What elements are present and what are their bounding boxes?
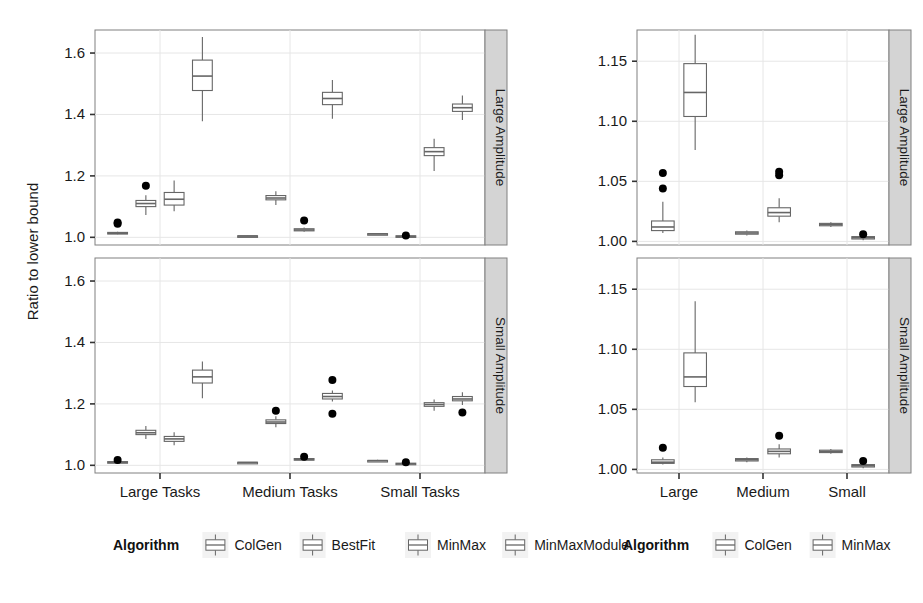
box-small-tasks-colgen bbox=[368, 460, 388, 462]
left-legend-key-minmaxmodule[interactable] bbox=[502, 532, 528, 558]
strip-left-large-amplitude: Large Amplitude bbox=[485, 30, 508, 245]
box-rect bbox=[652, 221, 675, 231]
box-rect bbox=[684, 353, 707, 387]
y-axis-title: Ratio to lower bound bbox=[24, 183, 41, 321]
strip-right-small-amplitude: Small Amplitude bbox=[889, 258, 912, 473]
ytick-label: 1.4 bbox=[64, 105, 85, 122]
outlier-point bbox=[775, 432, 783, 440]
box-small-colgen bbox=[820, 449, 843, 454]
xtick-label: Small bbox=[828, 483, 866, 500]
outlier-point bbox=[142, 182, 150, 190]
ytick-label: 1.05 bbox=[598, 400, 627, 417]
ytick-label: 1.05 bbox=[598, 172, 627, 189]
box-medium-colgen bbox=[736, 457, 759, 462]
ytick-label: 1.2 bbox=[64, 167, 85, 184]
ytick-label: 1.10 bbox=[598, 340, 627, 357]
strip-right-large-amplitude: Large Amplitude bbox=[889, 30, 912, 245]
panel-left-small-amplitude: 1.01.21.41.6Large TasksMedium TasksSmall… bbox=[64, 258, 485, 500]
ytick-label: 1.15 bbox=[598, 52, 627, 69]
ytick-label: 1.4 bbox=[64, 333, 85, 350]
right-legend-label-minmax: MinMax bbox=[842, 537, 891, 553]
xtick-label: Large Tasks bbox=[120, 483, 201, 500]
box-medium-tasks-colgen bbox=[238, 462, 258, 464]
left-legend-label-minmax: MinMax bbox=[437, 537, 486, 553]
ytick-label: 1.00 bbox=[598, 232, 627, 249]
box-medium-tasks-colgen bbox=[238, 235, 258, 237]
outlier-point bbox=[300, 453, 308, 461]
outlier-point bbox=[659, 444, 667, 452]
figure-root: 1.01.21.41.6Large Amplitude1.01.21.41.6L… bbox=[0, 0, 923, 603]
ytick-label: 1.0 bbox=[64, 228, 85, 245]
strip-label: Large Amplitude bbox=[493, 89, 508, 187]
ytick-label: 1.10 bbox=[598, 112, 627, 129]
left-legend-label-minmaxmodule: MinMaxModule bbox=[534, 537, 629, 553]
ytick-label: 1.2 bbox=[64, 395, 85, 412]
ytick-label: 1.00 bbox=[598, 460, 627, 477]
strip-label: Large Amplitude bbox=[897, 89, 912, 187]
outlier-point bbox=[300, 216, 308, 224]
panel-left-large-amplitude: 1.01.21.41.6 bbox=[64, 30, 485, 245]
right-legend-key-colgen[interactable] bbox=[712, 532, 738, 558]
xtick-label: Large bbox=[660, 483, 698, 500]
outlier-point bbox=[402, 458, 410, 466]
right-legend-key-minmax[interactable] bbox=[810, 532, 836, 558]
right-legend: AlgorithmColGenMinMax bbox=[623, 532, 891, 558]
box-small-tasks-colgen bbox=[368, 233, 388, 235]
left-legend: AlgorithmColGenBestFitMinMaxMinMaxModule bbox=[113, 532, 629, 558]
box-small-colgen bbox=[820, 222, 843, 227]
ytick-label: 1.15 bbox=[598, 280, 627, 297]
outlier-point bbox=[775, 168, 783, 176]
outlier-point bbox=[114, 456, 122, 464]
boxplot-figure: 1.01.21.41.6Large Amplitude1.01.21.41.6L… bbox=[0, 0, 923, 603]
outlier-point bbox=[328, 376, 336, 384]
left-legend-key-colgen[interactable] bbox=[202, 532, 228, 558]
box-medium-colgen bbox=[736, 231, 759, 236]
outlier-point bbox=[272, 407, 280, 415]
right-legend-title: Algorithm bbox=[623, 537, 689, 553]
box-rect bbox=[684, 64, 707, 117]
xtick-label: Medium Tasks bbox=[242, 483, 338, 500]
left-legend-label-bestfit: BestFit bbox=[332, 537, 376, 553]
strip-label: Small Amplitude bbox=[493, 317, 508, 414]
outlier-point bbox=[659, 185, 667, 193]
ytick-label: 1.6 bbox=[64, 44, 85, 61]
strip-label: Small Amplitude bbox=[897, 317, 912, 414]
ytick-label: 1.0 bbox=[64, 456, 85, 473]
panel-right-large-amplitude: 1.001.051.101.15 bbox=[598, 30, 889, 249]
xtick-label: Medium bbox=[736, 483, 789, 500]
left-legend-label-colgen: ColGen bbox=[234, 537, 281, 553]
xtick-label: Small Tasks bbox=[380, 483, 460, 500]
outlier-point bbox=[859, 230, 867, 238]
left-legend-title: Algorithm bbox=[113, 537, 179, 553]
left-legend-key-bestfit[interactable] bbox=[300, 532, 326, 558]
right-legend-label-colgen: ColGen bbox=[744, 537, 791, 553]
outlier-point bbox=[114, 219, 122, 227]
outlier-point bbox=[859, 457, 867, 465]
ytick-label: 1.6 bbox=[64, 272, 85, 289]
panel-right-small-amplitude: 1.001.051.101.15LargeMediumSmall bbox=[598, 258, 889, 500]
outlier-point bbox=[458, 408, 466, 416]
left-legend-key-minmax[interactable] bbox=[405, 532, 431, 558]
outlier-point bbox=[328, 410, 336, 418]
outlier-point bbox=[659, 169, 667, 177]
strip-left-small-amplitude: Small Amplitude bbox=[485, 258, 508, 473]
outlier-point bbox=[402, 231, 410, 239]
